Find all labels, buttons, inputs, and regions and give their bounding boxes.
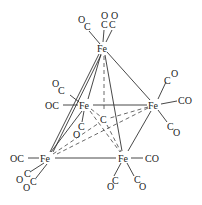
atom-carbide-c: C <box>100 114 107 125</box>
atom-fe-bot-left: Fe <box>40 153 51 164</box>
lig-midright-co-down <box>158 110 167 122</box>
midleft-oc-up-c: C <box>58 85 65 96</box>
atom-fe-mid-left: Fe <box>79 100 90 111</box>
lig-botleft-co-2 <box>36 164 47 178</box>
midleft-oc: OC <box>45 100 59 111</box>
fe5-carbide-cluster-diagram: Fe Fe Fe Fe Fe C O C O C O C O C OC C O … <box>0 0 202 205</box>
atom-fe-mid-right: Fe <box>148 100 159 111</box>
bond-botright-carbide <box>107 125 121 152</box>
atom-fe-bot-right: Fe <box>118 153 129 164</box>
midright-co: CO <box>178 95 192 106</box>
lig-midright-co <box>161 101 177 104</box>
botright-co-2-o: O <box>139 181 146 192</box>
botright-co-1-o: O <box>107 181 114 192</box>
top-co-2-c: C <box>109 19 116 30</box>
carbonyl-labels: O C O C O C O C OC C O C O CO C O OC C O… <box>10 10 192 193</box>
lig-top-co-1 <box>103 30 104 42</box>
lig-botright-co-2 <box>127 163 134 176</box>
midright-co-up-c: C <box>164 75 171 86</box>
top-oc-left-c: C <box>84 21 91 32</box>
bond-midright-botright <box>128 111 151 151</box>
bond-midleft-carbide <box>91 109 100 116</box>
lig-top-co-2 <box>106 30 112 42</box>
midright-co-up-o: O <box>171 68 178 79</box>
botright-co: CO <box>145 153 159 164</box>
botleft-co-2-o: O <box>23 182 30 193</box>
midleft-co-down-o: O <box>73 129 80 140</box>
midright-co-down-o: O <box>173 127 180 138</box>
bond-top-botright <box>105 55 122 151</box>
botleft-co-2-c: C <box>30 176 37 187</box>
top-co-1-c: C <box>101 19 108 30</box>
atom-fe-top: Fe <box>97 43 108 54</box>
botleft-oc: OC <box>10 153 24 164</box>
bond-top-midright <box>107 52 150 100</box>
